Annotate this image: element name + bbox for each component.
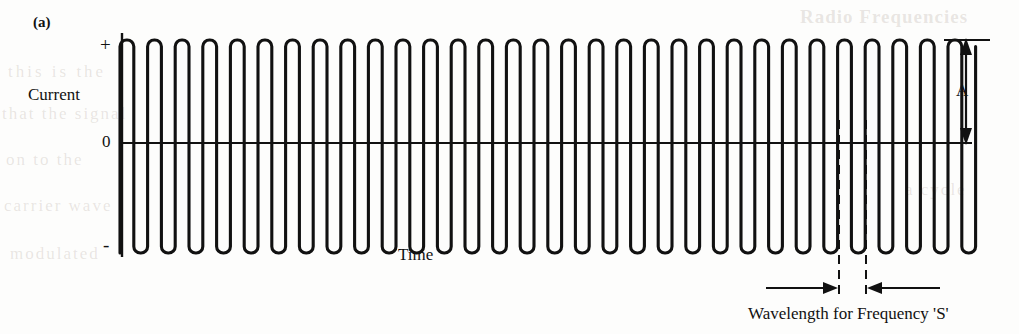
waveform-trace xyxy=(120,40,976,253)
waveform-plot xyxy=(0,0,1019,334)
waveform-figure: Radio Frequencies this is the that the s… xyxy=(0,0,1019,334)
amplitude-marker xyxy=(944,38,990,145)
arrow-head-left xyxy=(867,282,882,294)
arrow-head-right xyxy=(823,282,838,294)
wavelength-marker xyxy=(766,282,940,294)
